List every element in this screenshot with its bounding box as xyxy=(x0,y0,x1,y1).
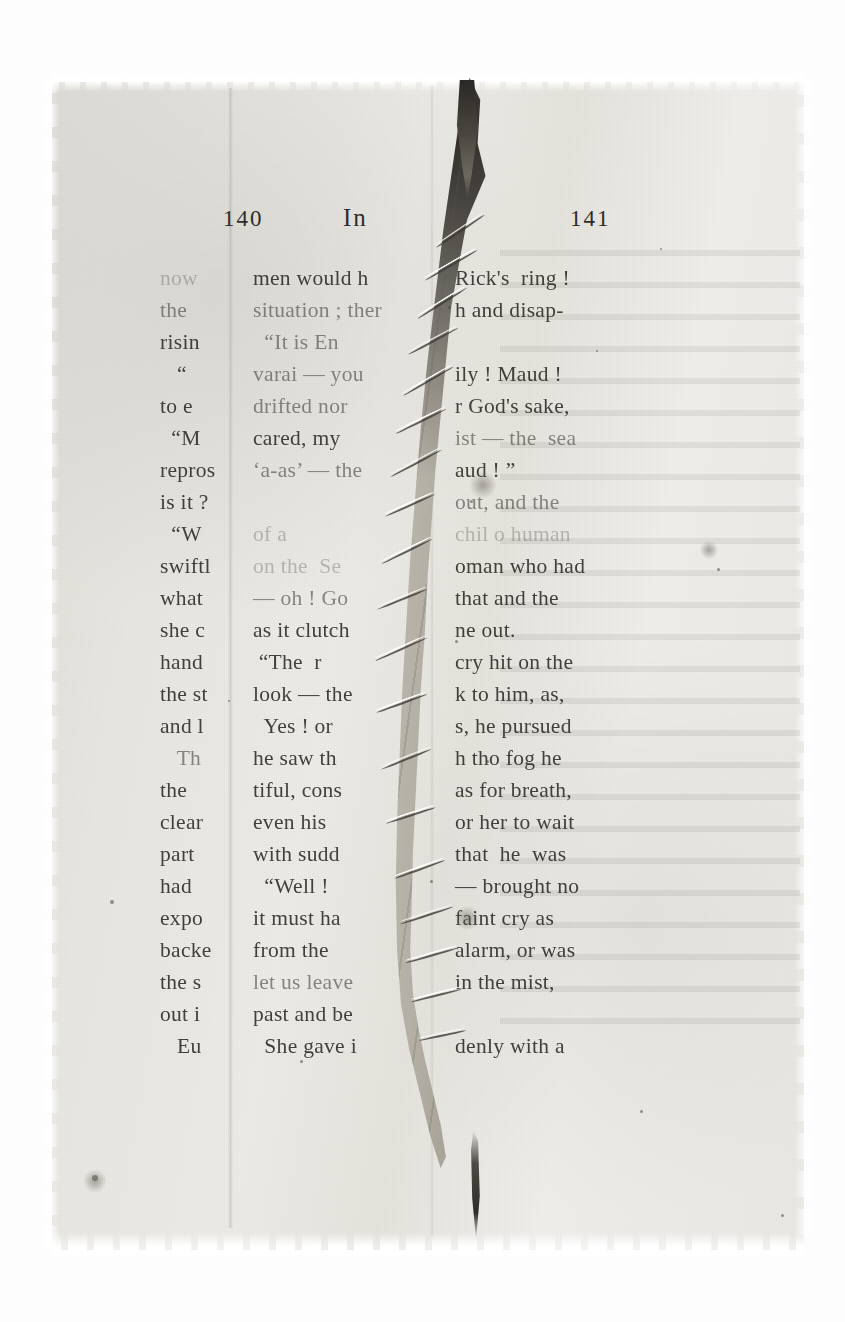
right-fragment-line-17: as for breath, xyxy=(455,774,585,806)
middle-fragment-line-19: with sudd xyxy=(253,838,382,870)
right-fragment-line-22: alarm, or was xyxy=(455,934,585,966)
ink-speck-12 xyxy=(300,1060,303,1063)
ink-speck-6 xyxy=(448,306,451,309)
middle-fragment-line-6: cared, my xyxy=(253,422,382,454)
left-fragment-line-14: the st xyxy=(160,678,216,710)
page-number-left: 140 xyxy=(223,206,264,232)
middle-fragment-line-21: it must ha xyxy=(253,902,382,934)
left-fragment-line-1: now xyxy=(160,262,216,294)
right-fragment-line-9: chil o human xyxy=(455,518,585,550)
middle-fragment-line-24: past and be xyxy=(253,998,382,1030)
ink-speck-3 xyxy=(781,1214,784,1217)
leaf-bottom-edge xyxy=(52,1232,804,1256)
middle-fragment-line-17: tiful, cons xyxy=(253,774,382,806)
left-fragment-line-16: Th xyxy=(160,742,216,774)
paper-crease-right xyxy=(430,86,434,1236)
page-number-right: 141 xyxy=(570,206,611,232)
right-fragment-line-5: r God's sake, xyxy=(455,390,585,422)
leaf-top-edge xyxy=(52,74,804,92)
left-fragment-line-2: the xyxy=(160,294,216,326)
left-fragment-line-24: out i xyxy=(160,998,216,1030)
middle-fragment-line-4: varai — you xyxy=(253,358,382,390)
right-fragment-line-23: in the mist, xyxy=(455,966,585,998)
left-fragment-line-5: to e xyxy=(160,390,216,422)
foxing-blot-1 xyxy=(84,1168,106,1194)
middle-fragment-line-7: ‘a-as’ — the xyxy=(253,454,382,486)
middle-fragment-line-12: as it clutch xyxy=(253,614,382,646)
right-fragment-line-14: k to him, as, xyxy=(455,678,585,710)
right-fragment-line-13: cry hit on the xyxy=(455,646,585,678)
left-fragment-line-10: swiftl xyxy=(160,550,216,582)
middle-fragment-line-16: he saw th xyxy=(253,742,382,774)
right-fragment-line-4: ily ! Maud ! xyxy=(455,358,585,390)
left-fragment-line-8: is it ? xyxy=(160,486,216,518)
middle-fragment-line-5: drifted nor xyxy=(253,390,382,422)
left-fragment-line-21: expo xyxy=(160,902,216,934)
middle-fragment-line-10: on the Se xyxy=(253,550,382,582)
foxing-blot-3 xyxy=(455,905,479,931)
right-fragment-line-12: ne out. xyxy=(455,614,585,646)
middle-fragment-line-22: from the xyxy=(253,934,382,966)
middle-fragment-line-11: — oh ! Go xyxy=(253,582,382,614)
right-fragment-line-3 xyxy=(455,326,585,358)
ink-speck-13 xyxy=(228,700,230,702)
left-fragment-line-15: and l xyxy=(160,710,216,742)
right-fragment-line-6: ist — the sea xyxy=(455,422,585,454)
middle-fragment-line-3: “It is En xyxy=(253,326,382,358)
middle-fragment-line-15: Yes ! or xyxy=(253,710,382,742)
middle-fragment-line-18: even his xyxy=(253,806,382,838)
ink-speck-9 xyxy=(486,760,489,763)
left-fragment-line-7: repros xyxy=(160,454,216,486)
ink-speck-11 xyxy=(596,350,598,352)
left-fragment-line-23: the s xyxy=(160,966,216,998)
left-fragment-line-22: backe xyxy=(160,934,216,966)
left-fragment-line-19: part xyxy=(160,838,216,870)
ink-speck-7 xyxy=(470,500,473,503)
running-head-title: In xyxy=(343,204,368,232)
ink-speck-14 xyxy=(660,248,662,250)
middle-fragment-line-13: “The r xyxy=(253,646,382,678)
middle-fragment-line-2: situation ; ther xyxy=(253,294,382,326)
right-fragment-line-2: h and disap- xyxy=(455,294,585,326)
ink-speck-8 xyxy=(455,640,458,643)
left-fragment-line-11: what xyxy=(160,582,216,614)
text-column-right-fragments: Rick's ring !h and disap-ily ! Maud !r G… xyxy=(455,262,585,1062)
left-fragment-line-13: hand xyxy=(160,646,216,678)
right-fragment-line-15: s, he pursued xyxy=(455,710,585,742)
scan-background: 140 In 141 nowtherisin “to e “Mreprosis … xyxy=(0,0,845,1322)
middle-fragment-line-14: look — the xyxy=(253,678,382,710)
right-fragment-line-16: h tho fog he xyxy=(455,742,585,774)
foxing-blot-2 xyxy=(470,470,496,500)
leaf-left-edge xyxy=(44,82,60,1250)
foxing-blot-4 xyxy=(700,540,718,560)
middle-fragment-line-1: men would h xyxy=(253,262,382,294)
left-fragment-line-20: had xyxy=(160,870,216,902)
middle-fragment-line-9: of a xyxy=(253,518,382,550)
right-fragment-line-19: that he was xyxy=(455,838,585,870)
left-fragment-line-3: risin xyxy=(160,326,216,358)
left-fragment-line-6: “M xyxy=(160,422,216,454)
right-fragment-line-20: — brought no xyxy=(455,870,585,902)
paper-crease-left xyxy=(228,88,233,1228)
left-fragment-line-12: she c xyxy=(160,614,216,646)
middle-fragment-line-8 xyxy=(253,486,382,518)
right-fragment-line-25: denly with a xyxy=(455,1030,585,1062)
left-fragment-line-25: Eu xyxy=(160,1030,216,1062)
ink-speck-1 xyxy=(717,568,720,571)
right-fragment-line-1: Rick's ring ! xyxy=(455,262,585,294)
middle-fragment-line-25: She gave i xyxy=(253,1030,382,1062)
left-fragment-line-18: clear xyxy=(160,806,216,838)
text-column-middle-fragments: men would hsituation ; ther “It is Envar… xyxy=(253,262,382,1062)
ink-speck-10 xyxy=(430,880,433,883)
middle-fragment-line-20: “Well ! xyxy=(253,870,382,902)
right-fragment-line-11: that and the xyxy=(455,582,585,614)
left-fragment-line-4: “ xyxy=(160,358,216,390)
text-column-left-fragments: nowtherisin “to e “Mreprosis it ? “Wswif… xyxy=(160,262,216,1062)
right-fragment-line-24 xyxy=(455,998,585,1030)
right-fragment-line-18: or her to wait xyxy=(455,806,585,838)
right-fragment-line-10: oman who had xyxy=(455,550,585,582)
ink-speck-5 xyxy=(110,900,114,904)
left-fragment-line-9: “W xyxy=(160,518,216,550)
middle-fragment-line-23: let us leave xyxy=(253,966,382,998)
ink-speck-4 xyxy=(640,1110,643,1113)
